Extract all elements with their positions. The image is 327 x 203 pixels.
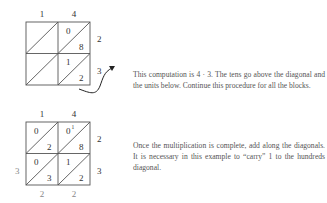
cell-tens: 1 <box>66 157 71 167</box>
result-digit-bottom-2: 2 <box>72 189 77 199</box>
top-label-2: 4 <box>72 109 77 119</box>
right-label-2: 3 <box>97 66 102 76</box>
caption-step-add-diagonals: Once the multiplication is complete, add… <box>133 140 325 173</box>
right-label-1: 2 <box>97 34 102 44</box>
cell-tens: 0 <box>66 126 71 136</box>
right-label-1: 2 <box>97 134 102 144</box>
cell-units: 2 <box>47 142 52 152</box>
top-label-2: 4 <box>72 9 77 19</box>
lattice-figure-2: 1 4 2 3 0 2 0 1 8 0 3 1 2 3 2 2 <box>0 100 130 203</box>
cell-units: 3 <box>47 173 52 183</box>
right-label-2: 3 <box>97 166 102 176</box>
result-digit-left: 3 <box>15 166 20 176</box>
cell-tens: 0 <box>34 157 39 167</box>
cell-tens: 0 <box>66 26 71 36</box>
lattice-figure-1: 1 4 2 3 0 8 1 2 <box>0 0 130 100</box>
caption-step-multiply: This computation is 4 · 3. The tens go a… <box>133 69 325 91</box>
cell-units: 8 <box>79 142 84 152</box>
carry-digit: 1 <box>72 124 75 130</box>
cell-tens: 0 <box>34 126 39 136</box>
top-label-1: 1 <box>40 109 45 119</box>
cell-tens: 1 <box>66 57 71 67</box>
cell-units: 2 <box>79 73 84 83</box>
cell-units: 2 <box>79 173 84 183</box>
cell-units: 8 <box>79 42 84 52</box>
top-label-1: 1 <box>40 9 45 19</box>
result-digit-bottom-1: 2 <box>40 189 45 199</box>
